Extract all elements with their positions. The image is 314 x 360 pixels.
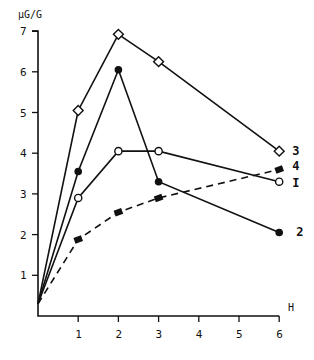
open-circle-marker [155,148,162,155]
series-group: 32I4 [38,29,303,303]
line-chart: 1234567123456 32I4 μG/G H [0,0,314,360]
series-line [38,34,279,303]
series-4: 4 [38,159,299,303]
open-circle-marker [276,178,283,185]
axes: 1234567123456 [20,25,283,341]
filled-square-marker [154,194,164,202]
series-line [38,169,279,303]
y-tick-label: 6 [20,66,27,79]
filled-square-marker [114,208,124,216]
y-tick-label: 1 [20,269,27,282]
filled-circle-marker [115,66,123,74]
filled-square-marker [274,165,284,173]
y-tick-label: 7 [20,25,27,38]
series-label: I [292,176,299,190]
y-tick-label: 3 [20,188,27,201]
y-axis-label: μG/G [18,9,42,20]
filled-circle-marker [275,229,283,237]
filled-square-marker [73,235,83,243]
y-tick-label: 2 [20,229,27,242]
x-axis-label: H [288,302,294,313]
x-tick-label: 1 [75,328,82,341]
open-circle-marker [75,194,82,201]
open-circle-marker [115,148,122,155]
series-label: 3 [292,144,299,158]
x-tick-label: 5 [236,328,243,341]
series-line [38,70,279,304]
x-tick-label: 4 [196,328,203,341]
series-2: 2 [38,66,303,304]
x-tick-label: 3 [156,328,163,341]
y-tick-label: 5 [20,107,27,120]
y-tick-label: 4 [20,147,27,160]
x-tick-label: 6 [276,328,283,341]
series-line [38,151,279,304]
open-diamond-marker [73,106,83,116]
filled-circle-marker [155,178,163,186]
series-3: 3 [38,29,299,303]
x-tick-label: 2 [115,328,122,341]
open-diamond-marker [113,29,123,39]
series-label: 4 [292,159,299,173]
filled-circle-marker [74,168,82,176]
series-label: 2 [296,225,303,239]
